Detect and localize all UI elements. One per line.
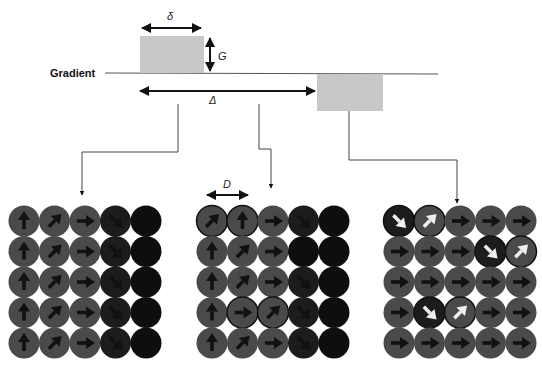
spin <box>131 236 162 267</box>
gradient-label: Gradient <box>50 67 96 79</box>
g-label: G <box>218 50 227 62</box>
spin <box>131 328 162 359</box>
spin <box>131 297 162 328</box>
spin-panel-after-first-pulse <box>9 206 162 359</box>
spin <box>319 267 350 298</box>
spin <box>319 206 350 237</box>
spin-panel-during-diffusion <box>197 206 350 359</box>
connector-2 <box>259 104 271 188</box>
spin <box>288 236 319 267</box>
connector-1 <box>82 104 178 195</box>
delta-big-label: Δ <box>208 94 216 106</box>
spin <box>131 206 162 237</box>
connector-3 <box>349 111 457 203</box>
first-gradient-pulse <box>140 36 204 73</box>
delta-small-label: δ <box>167 10 174 22</box>
second-gradient-pulse <box>317 74 383 111</box>
spin <box>319 236 350 267</box>
spin <box>319 328 350 359</box>
spin <box>319 297 350 328</box>
gradient-timeline <box>105 36 438 111</box>
pgse-diagram: Gradient δ G Δ D <box>0 0 542 371</box>
spin-panel-after-second-pulse <box>384 206 537 359</box>
spin <box>131 267 162 298</box>
d-label: D <box>223 178 231 190</box>
